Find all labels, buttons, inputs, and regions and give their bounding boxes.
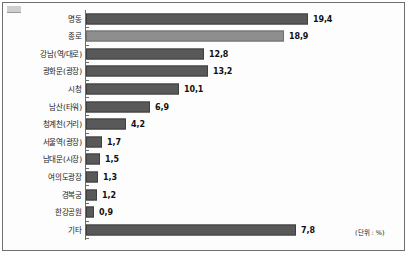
bar-row: 기타7,8 <box>3 221 406 238</box>
bar-row: 남산(타워)6,9 <box>3 98 406 115</box>
category-label: 남대문(시장) <box>43 155 82 164</box>
bar[interactable] <box>86 31 284 42</box>
bar-container <box>86 207 94 218</box>
category-label: 강남(역/대로) <box>40 49 82 58</box>
bar[interactable] <box>86 136 102 147</box>
bar-container <box>86 119 126 130</box>
bar-row: 시청10,1 <box>3 80 406 97</box>
bar-value-label: 0,9 <box>99 208 113 217</box>
bar-container <box>86 83 179 94</box>
category-label: 기타 <box>68 225 82 234</box>
bar[interactable] <box>86 101 150 112</box>
bar-container <box>86 66 208 77</box>
bar-container <box>86 171 98 182</box>
bar[interactable] <box>86 154 100 165</box>
category-label: 종로 <box>68 32 82 41</box>
bar-container <box>86 31 284 42</box>
category-label: 서울역(광장) <box>43 137 82 146</box>
bar-value-label: 6,9 <box>155 102 169 111</box>
bar[interactable] <box>86 224 296 235</box>
bar-container <box>86 224 296 235</box>
category-label: 여의도광장 <box>48 172 82 181</box>
bar-row: 서울역(광장)1,7 <box>3 133 406 150</box>
chart-frame: 명동19,4종로18,9강남(역/대로)12,8광화문(광장)13,2시청10,… <box>2 2 405 251</box>
bar-row: 경복궁1,2 <box>3 186 406 203</box>
bar-row: 종로18,9 <box>3 28 406 45</box>
bar-row: 광화문(광장)13,2 <box>3 63 406 80</box>
category-label: 광화문(광장) <box>43 67 82 76</box>
bar-value-label: 18,9 <box>289 32 308 41</box>
bar-value-label: 12,8 <box>209 49 228 58</box>
bar-chart-plot-area: 명동19,4종로18,9강남(역/대로)12,8광화문(광장)13,2시청10,… <box>3 3 406 252</box>
bar-row: 여의도광장1,3 <box>3 168 406 185</box>
category-label: 청계천(거리) <box>43 120 82 129</box>
bar-container <box>86 13 308 24</box>
bar-value-label: 13,2 <box>213 67 232 76</box>
bar-value-label: 19,4 <box>313 14 332 23</box>
bar-row: 강남(역/대로)12,8 <box>3 45 406 62</box>
bar[interactable] <box>86 48 204 59</box>
category-label: 시청 <box>68 84 82 93</box>
bar[interactable] <box>86 66 208 77</box>
bar-value-label: 10,1 <box>184 84 203 93</box>
bar-value-label: 1,5 <box>105 155 119 164</box>
bar-container <box>86 101 150 112</box>
unit-note-label: (단위 : %) <box>355 227 385 237</box>
category-label: 남산(타워) <box>49 102 82 111</box>
bar[interactable] <box>86 119 126 130</box>
bar-container <box>86 189 97 200</box>
bar-row: 한강공원0,9 <box>3 204 406 221</box>
bar-row: 명동19,4 <box>3 10 406 27</box>
axis-tick <box>85 238 89 239</box>
bar-value-label: 7,8 <box>301 225 315 234</box>
bar-value-label: 4,2 <box>131 120 145 129</box>
bar-container <box>86 136 102 147</box>
bar[interactable] <box>86 207 94 218</box>
bar-container <box>86 154 100 165</box>
bar-value-label: 1,7 <box>107 137 121 146</box>
bar-value-label: 1,2 <box>102 190 116 199</box>
bar[interactable] <box>86 83 179 94</box>
bar[interactable] <box>86 171 98 182</box>
bar[interactable] <box>86 189 97 200</box>
category-label: 경복궁 <box>62 190 82 199</box>
bar-row: 청계천(거리)4,2 <box>3 116 406 133</box>
category-label: 명동 <box>68 14 82 23</box>
bar-container <box>86 48 204 59</box>
bar[interactable] <box>86 13 308 24</box>
category-label: 한강공원 <box>55 208 82 217</box>
bar-row: 남대문(시장)1,5 <box>3 151 406 168</box>
bar-value-label: 1,3 <box>103 172 117 181</box>
